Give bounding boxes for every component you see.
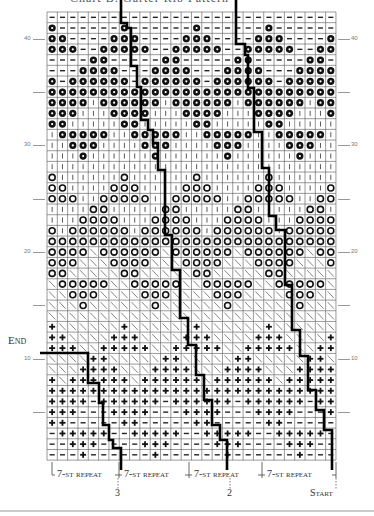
stitch-cell bbox=[172, 56, 179, 63]
stitch-cell bbox=[110, 46, 117, 53]
row-number-label: 10 bbox=[351, 355, 358, 361]
stitch-cell bbox=[224, 78, 231, 85]
stitch-cell bbox=[296, 142, 303, 149]
stitch-cell bbox=[265, 24, 272, 31]
stitch-cell bbox=[255, 99, 262, 106]
stitch-cell bbox=[317, 99, 324, 106]
stitch-cell bbox=[296, 99, 303, 106]
stitch-cell bbox=[131, 99, 138, 106]
stitch-cell bbox=[214, 142, 221, 149]
stitch-cell bbox=[172, 88, 179, 95]
row-number-label: 30 bbox=[351, 141, 358, 147]
stitch-cell bbox=[265, 46, 272, 53]
stitch-cell bbox=[80, 131, 87, 138]
stitch-cell bbox=[110, 88, 117, 95]
stitch-cell bbox=[234, 56, 241, 63]
stitch-cell bbox=[152, 88, 159, 95]
stitch-cell bbox=[49, 99, 56, 106]
stitch-cell bbox=[110, 99, 117, 106]
stitch-cell bbox=[162, 88, 169, 95]
stitch-cell bbox=[214, 46, 221, 53]
stitch-cell bbox=[203, 131, 210, 138]
stitch-cell bbox=[276, 110, 283, 117]
stitch-cell bbox=[152, 67, 159, 74]
stitch-cell bbox=[276, 46, 283, 53]
stitch-cell bbox=[245, 88, 252, 95]
row-number-label: 20 bbox=[24, 248, 31, 254]
stitch-cell bbox=[141, 142, 148, 149]
stitch-cell bbox=[69, 78, 76, 85]
stitch-cell bbox=[110, 78, 117, 85]
stitch-cell bbox=[49, 88, 56, 95]
row-tick bbox=[338, 92, 350, 93]
stitch-cell bbox=[255, 35, 262, 42]
stitch-cell bbox=[80, 142, 87, 149]
stitch-cell bbox=[296, 88, 303, 95]
stitch-cell bbox=[224, 67, 231, 74]
stitch-cell bbox=[317, 131, 324, 138]
stitch-cell bbox=[193, 24, 200, 31]
stitch-cell bbox=[265, 120, 272, 127]
stitch-cell bbox=[203, 35, 210, 42]
row-tick bbox=[33, 252, 45, 253]
row-tick bbox=[338, 39, 350, 40]
stitch-cell bbox=[100, 46, 107, 53]
stitch-cell bbox=[80, 99, 87, 106]
stitch-cell bbox=[307, 88, 314, 95]
stitch-cell bbox=[162, 78, 169, 85]
stitch-cell bbox=[286, 142, 293, 149]
stitch-cell bbox=[193, 35, 200, 42]
stitch-cell bbox=[193, 120, 200, 127]
stitch-cell bbox=[69, 88, 76, 95]
stitch-cell bbox=[49, 24, 56, 31]
stitch-cell bbox=[59, 131, 66, 138]
stitch-cell bbox=[121, 120, 128, 127]
stitch-cell bbox=[265, 78, 272, 85]
row-number-label: 10 bbox=[24, 355, 31, 361]
stitch-cell bbox=[265, 88, 272, 95]
stitch-cell bbox=[327, 78, 334, 85]
stitch-cell bbox=[172, 78, 179, 85]
stitch-cell bbox=[276, 99, 283, 106]
stitch-cell bbox=[224, 131, 231, 138]
stitch-cell bbox=[121, 88, 128, 95]
stitch-cell bbox=[307, 78, 314, 85]
stitch-cell bbox=[255, 88, 262, 95]
stitch-cell bbox=[193, 78, 200, 85]
row-number-label: 20 bbox=[351, 248, 358, 254]
stitch-cell bbox=[172, 99, 179, 106]
page-divider bbox=[0, 510, 374, 512]
stitch-cell bbox=[224, 88, 231, 95]
stitch-cell bbox=[327, 35, 334, 42]
stitch-cell bbox=[183, 88, 190, 95]
row-tick bbox=[338, 359, 350, 360]
repeat-marker-label: 2 bbox=[227, 487, 232, 498]
row-tick bbox=[338, 305, 350, 306]
stitch-cell bbox=[255, 46, 262, 53]
row-tick bbox=[338, 199, 350, 200]
row-number-label: 40 bbox=[24, 35, 31, 41]
stitch-cell bbox=[255, 110, 262, 117]
row-tick bbox=[33, 359, 45, 360]
stitch-cell bbox=[90, 142, 97, 149]
stitch-cell bbox=[183, 78, 190, 85]
stitch-cell bbox=[327, 99, 334, 106]
stitch-cell bbox=[100, 56, 107, 63]
stitch-cell bbox=[183, 35, 190, 42]
stitch-cell bbox=[162, 142, 169, 149]
stitch-cell bbox=[90, 56, 97, 63]
stitch-cell bbox=[276, 120, 283, 127]
stitch-cell bbox=[265, 99, 272, 106]
stitch-cell bbox=[286, 46, 293, 53]
row-tick bbox=[33, 145, 45, 146]
stitch-cell bbox=[317, 67, 324, 74]
stitch-cell bbox=[296, 78, 303, 85]
stitch-cell bbox=[286, 99, 293, 106]
stitch-cell bbox=[110, 110, 117, 117]
stitch-cell bbox=[49, 110, 56, 117]
stitch-cell bbox=[100, 78, 107, 85]
stitch-cell bbox=[141, 99, 148, 106]
stitch-cell bbox=[234, 67, 241, 74]
stitch-cell bbox=[59, 120, 66, 127]
stitch-cell bbox=[317, 88, 324, 95]
